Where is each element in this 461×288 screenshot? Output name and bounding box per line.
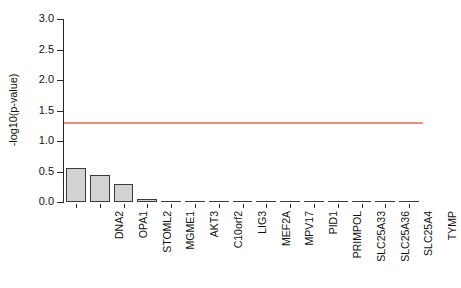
y-axis-tick bbox=[57, 19, 63, 20]
y-axis-tick bbox=[57, 50, 63, 51]
significance-threshold-line bbox=[64, 122, 423, 124]
bar-tymp bbox=[399, 201, 419, 202]
y-axis-tick-label: 3.0 bbox=[14, 13, 54, 24]
x-axis-tick bbox=[385, 204, 386, 208]
y-axis-tick bbox=[57, 111, 63, 112]
bar-opa1 bbox=[90, 175, 110, 202]
x-axis-tick bbox=[266, 204, 267, 208]
x-axis-tick bbox=[362, 204, 363, 208]
plot-area bbox=[64, 19, 421, 202]
x-axis-tick bbox=[100, 204, 101, 208]
x-axis-tick bbox=[338, 204, 339, 208]
bar-slc25a33 bbox=[328, 201, 348, 202]
x-axis-tick bbox=[147, 204, 148, 208]
y-axis-tick bbox=[57, 141, 63, 142]
x-axis-tick bbox=[76, 204, 77, 208]
bar-mef2a bbox=[233, 201, 253, 202]
x-axis-tick bbox=[409, 204, 410, 208]
bar-akt3 bbox=[161, 201, 181, 202]
bar-primpol bbox=[304, 201, 324, 202]
y-axis-tick bbox=[57, 172, 63, 173]
bar-pid1 bbox=[280, 201, 300, 202]
x-axis-tick bbox=[314, 204, 315, 208]
y-axis-tick bbox=[57, 202, 63, 203]
y-axis-tick-label: 0.5 bbox=[14, 166, 54, 177]
y-axis-tick-label: 1.5 bbox=[14, 105, 54, 116]
bar-c10orf2 bbox=[185, 201, 205, 202]
x-axis-tick bbox=[124, 204, 125, 208]
bar-lig3 bbox=[209, 201, 229, 202]
y-axis-tick bbox=[57, 80, 63, 81]
y-axis-tick-label: 2.0 bbox=[14, 74, 54, 85]
bar-slc25a36 bbox=[352, 201, 372, 202]
x-axis-tick bbox=[243, 204, 244, 208]
y-axis-tick-label: 0.0 bbox=[14, 196, 54, 207]
bar-slc25a4 bbox=[375, 201, 395, 202]
x-axis-label-tymp: TYMP bbox=[413, 210, 461, 288]
x-axis-tick bbox=[290, 204, 291, 208]
x-axis-tick bbox=[219, 204, 220, 208]
bar-dna2 bbox=[66, 168, 86, 202]
y-axis-tick-label: 2.5 bbox=[14, 44, 54, 55]
x-axis-labels: DNA2OPA1STOML2MGME1AKT3C10orf2LIG3MEF2AM… bbox=[64, 204, 421, 288]
x-axis-tick bbox=[195, 204, 196, 208]
y-axis-tick-label: 1.0 bbox=[14, 135, 54, 146]
bar-stoml2 bbox=[114, 184, 134, 202]
x-axis-tick bbox=[171, 204, 172, 208]
bar-mgme1 bbox=[137, 199, 157, 202]
bar-mpv17 bbox=[256, 201, 276, 202]
